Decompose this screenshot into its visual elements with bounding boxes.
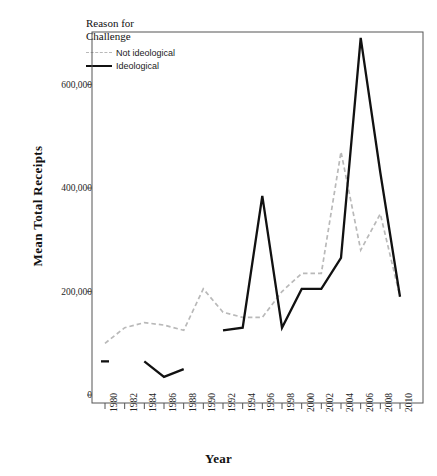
- caption-stub: [40, 470, 400, 473]
- plot-area: [0, 0, 437, 476]
- series-line-2: [223, 38, 400, 330]
- axis-frame: [92, 32, 423, 403]
- series-layer: [101, 38, 400, 377]
- x-tick-marks: [105, 403, 400, 409]
- chart-figure: Mean Total Receipts 0200,000400,000600,0…: [0, 0, 437, 476]
- series-line-1: [105, 152, 400, 343]
- series-line-2: [144, 361, 183, 377]
- y-tick-marks: [87, 85, 92, 396]
